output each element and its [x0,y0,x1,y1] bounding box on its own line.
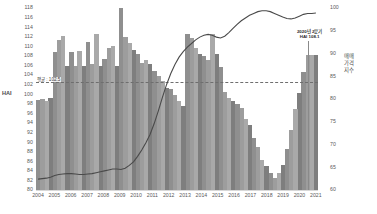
left-axis-tick: 82 [27,178,33,183]
left-axis-tick: 94 [27,120,33,125]
plot-area: 평균 : 102.5 2020년 2분기 HAI 108.1 [36,8,318,190]
chart-root: 118116114112110108106104102100HAI9896949… [0,0,377,214]
x-axis-tick: 2020 [294,193,306,198]
x-axis-tick: 2011 [147,193,158,198]
x-axis-tick: 2009 [114,193,126,198]
right-axis-tick: 60 [330,187,336,192]
x-axis-tick: 2019 [277,193,289,198]
right-axis-tick: 100 [330,5,339,10]
right-axis-title-line: 매매 [344,53,354,60]
left-axis: 118116114112110108106104102100HAI9896949… [0,8,36,190]
left-axis-tick: 96 [27,111,33,116]
right-axis-tick: 85 [330,74,336,79]
x-axis-tick: 2007 [81,193,93,198]
right-axis-tick: 75 [330,119,336,124]
x-axis-tick: 2021 [310,193,322,198]
right-axis-tick: 95 [330,28,336,33]
right-axis-title-line: 지수 [344,67,354,74]
x-axis-tick: 2013 [179,193,191,198]
left-axis-tick: 92 [27,130,33,135]
left-axis-tick: 90 [27,140,33,145]
x-axis-tick: 2017 [245,193,257,198]
x-axis: 2004200520062007200820092010201120122013… [36,190,318,214]
price-index-line [36,8,318,190]
left-axis-tick: 108 [24,53,33,58]
right-axis-tick: 65 [330,165,336,170]
left-axis-tick: 88 [27,149,33,154]
x-axis-tick: 2016 [228,193,240,198]
left-axis-tick: 110 [24,44,33,49]
left-axis-tick: 116 [24,15,33,20]
x-axis-tick: 2014 [196,193,208,198]
right-axis-title-line: 가격 [344,60,354,67]
left-axis-tick: 114 [24,25,33,30]
peak-callout-line [308,41,309,190]
x-axis-tick: 2006 [65,193,77,198]
left-axis-tick: 84 [27,168,33,173]
left-axis-tick: 100 [24,92,33,97]
right-axis-tick: 70 [330,142,336,147]
left-axis-tick: 98 [27,101,33,106]
left-axis-tick: 118 [24,5,33,10]
x-axis-tick: 2008 [98,193,110,198]
right-axis-title: 매매가격지수 [344,53,354,74]
right-axis-tick: 90 [330,51,336,56]
x-axis-tick: 2018 [261,193,273,198]
peak-callout-line2: HAI 108.1 [300,34,320,39]
x-axis-tick: 2012 [163,193,175,198]
left-axis-tick: 106 [24,63,33,68]
left-axis-tick: 104 [24,72,33,77]
left-axis-tick: 102 [24,82,33,87]
left-axis-title: HAI [2,91,12,97]
right-axis-tick: 80 [330,96,336,101]
left-axis-tick: 112 [24,34,33,39]
x-axis-tick: 2015 [212,193,224,198]
x-axis-tick: 2010 [130,193,142,198]
left-axis-tick: 86 [27,159,33,164]
right-axis: 1009590858075706560매매가격지수 [318,8,356,190]
price-index-path [38,11,316,179]
x-axis-tick: 2004 [32,193,44,198]
x-axis-tick: 2005 [49,193,61,198]
